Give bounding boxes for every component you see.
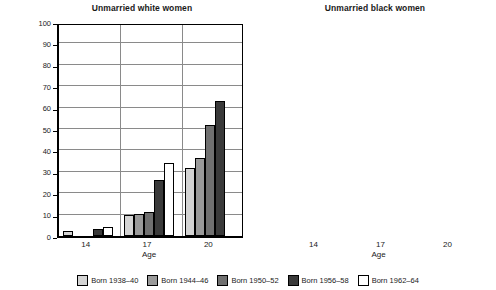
x-tick-label: 17 <box>361 240 401 249</box>
bar <box>195 158 205 236</box>
legend-item[interactable]: Born 1938–40 <box>77 275 138 286</box>
legend-swatch-icon <box>288 275 299 286</box>
x-axis-label: Age <box>349 250 409 259</box>
legend-item[interactable]: Born 1956–58 <box>288 275 349 286</box>
y-tick-label: 60 <box>21 105 51 113</box>
legend-label: Born 1962–64 <box>372 276 419 285</box>
y-tick-mark <box>53 238 57 239</box>
legend-swatch-icon <box>217 275 228 286</box>
y-tick-label: 40 <box>21 148 51 156</box>
x-tick-label: 17 <box>127 240 167 249</box>
figure: Unmarried white women Percentage 0102030… <box>0 0 496 290</box>
legend-swatch-icon <box>77 275 88 286</box>
panel-unmarried-black-women: Unmarried black women 141720Age <box>250 0 496 262</box>
legend-item[interactable]: Born 1962–64 <box>358 275 419 286</box>
legend-label: Born 1944–46 <box>161 276 208 285</box>
panel-title-left: Unmarried white women <box>0 3 250 13</box>
y-tick-label: 30 <box>21 169 51 177</box>
bar <box>93 229 103 236</box>
bar <box>185 168 195 236</box>
y-tick-label: 10 <box>21 212 51 220</box>
legend-item[interactable]: Born 1944–46 <box>147 275 208 286</box>
panel-unmarried-white-women: Unmarried white women Percentage 0102030… <box>0 0 250 262</box>
bar <box>63 231 73 236</box>
bar <box>154 180 164 236</box>
x-axis-label: Age <box>119 250 179 259</box>
legend-item[interactable]: Born 1950–52 <box>217 275 278 286</box>
x-tick-label: 14 <box>294 240 334 249</box>
y-tick-label: 70 <box>21 84 51 92</box>
y-tick-label: 100 <box>21 20 51 28</box>
x-tick-label: 20 <box>188 240 228 249</box>
bar <box>134 214 144 236</box>
y-tick-label: 20 <box>21 191 51 199</box>
bar <box>124 215 134 236</box>
legend-label: Born 1950–52 <box>231 276 278 285</box>
legend: Born 1938–40Born 1944–46Born 1950–52Born… <box>0 272 496 288</box>
y-tick-label: 80 <box>21 62 51 70</box>
bar <box>215 101 225 236</box>
x-tick-label: 20 <box>428 240 468 249</box>
y-tick-label: 90 <box>21 41 51 49</box>
bars-left <box>59 25 242 236</box>
legend-label: Born 1956–58 <box>302 276 349 285</box>
legend-label: Born 1938–40 <box>91 276 138 285</box>
y-tick-label: 0 <box>21 234 51 242</box>
bar <box>144 212 154 236</box>
legend-swatch-icon <box>147 275 158 286</box>
plot-area-left <box>57 24 243 238</box>
y-tick-label: 50 <box>21 127 51 135</box>
panel-title-right: Unmarried black women <box>250 3 496 13</box>
bar <box>164 163 174 236</box>
bar <box>103 227 113 236</box>
x-tick-label: 14 <box>66 240 106 249</box>
bar <box>205 125 215 236</box>
legend-swatch-icon <box>358 275 369 286</box>
